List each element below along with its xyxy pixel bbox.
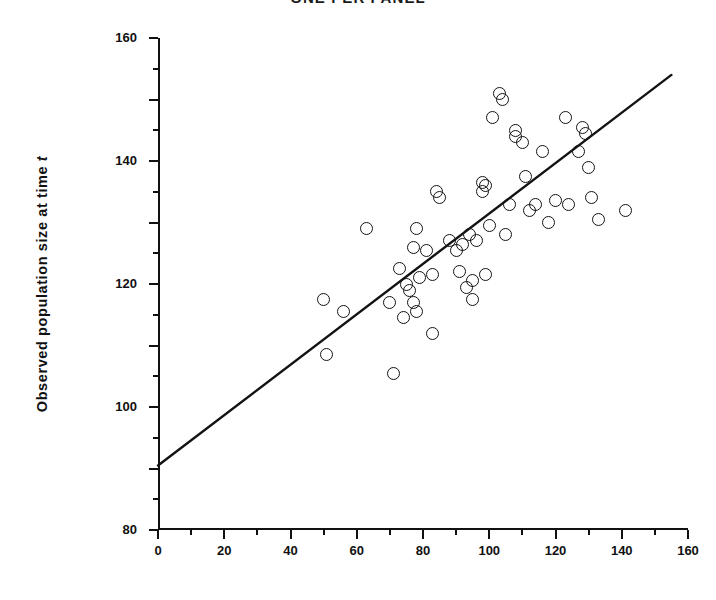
x-tick-20 [223,530,225,539]
x-tick-140 [621,530,623,539]
scatter-point [483,219,496,232]
scatter-point [562,198,575,211]
scatter-point [582,161,595,174]
scatter-point [317,293,330,306]
regression-line [158,38,688,530]
y-tick-120: 120 [149,160,158,162]
scatter-point [592,213,605,226]
scatter-point [619,204,632,217]
scatter-point [529,198,542,211]
x-tick-label-140: 140 [611,543,633,558]
scatter-point [579,127,592,140]
y-tick-label-140: 140 [115,153,137,168]
scatter-point [403,284,416,297]
x-minor-tick-130 [588,530,590,535]
x-tick-label-100: 100 [478,543,500,558]
y-tick-140: 140 [149,99,158,101]
chart-title-container: ONE PER PANEL [0,0,716,9]
y-tick-40: 40 [149,406,158,408]
x-tick-0 [157,530,159,539]
x-tick-100 [488,530,490,539]
y-axis-label-text: Observed population size at time [34,161,50,412]
x-tick-label-40: 40 [283,543,297,558]
scatter-point [420,244,433,257]
x-minor-tick-10 [190,530,192,535]
y-tick-80: 80 [149,283,158,285]
x-minor-tick-110 [521,530,523,535]
x-minor-tick-30 [256,530,258,535]
scatter-point [519,170,532,183]
y-tick-160: 160 [149,37,158,39]
y-tick-100: 100 [149,222,158,224]
scatter-point [503,198,516,211]
x-tick-120 [555,530,557,539]
scatter-point [410,222,423,235]
x-minor-tick-150 [654,530,656,535]
y-tick-label-100: 100 [115,399,137,414]
scatter-point [470,234,483,247]
x-minor-tick-50 [323,530,325,535]
x-tick-160 [687,530,689,539]
scatter-point [516,136,529,149]
plot-area: 020406080100120140160 020406080100120140… [158,38,688,530]
x-tick-label-60: 60 [350,543,364,558]
scatter-point [407,241,420,254]
x-tick-label-80: 80 [416,543,430,558]
x-tick-80 [422,530,424,539]
x-tick-label-120: 120 [545,543,567,558]
scatter-point [387,367,400,380]
scatter-point [466,293,479,306]
x-tick-label-20: 20 [217,543,231,558]
x-tick-label-0: 0 [154,543,161,558]
scatter-point [410,305,423,318]
y-axis-label-variable: t [34,156,50,161]
y-tick-label-160: 160 [115,30,137,45]
y-tick-label-120: 120 [115,276,137,291]
x-minor-tick-70 [389,530,391,535]
y-tick-label-80: 80 [123,522,137,537]
scatter-point [496,93,509,106]
x-tick-40 [290,530,292,539]
x-tick-label-160: 160 [677,543,699,558]
scatter-point [397,311,410,324]
scatter-point [536,145,549,158]
y-tick-20: 20 [149,468,158,470]
x-tick-60 [356,530,358,539]
x-minor-tick-90 [455,530,457,535]
y-tick-60: 60 [149,345,158,347]
y-axis-label: Observed population size at time t [34,74,50,494]
chart-title: ONE PER PANEL [0,0,716,6]
